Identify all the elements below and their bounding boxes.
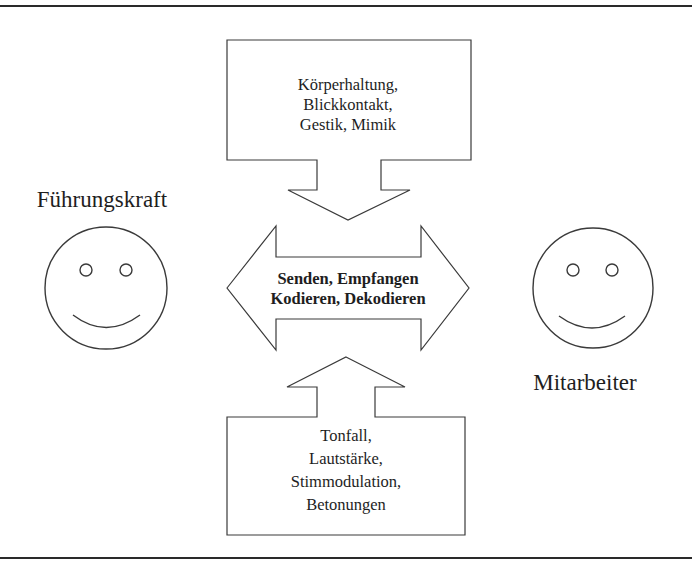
center-arrow-line-1: Senden, Empfangen [277,269,418,288]
bottom-callout-line-1: Tonfall, [320,426,372,445]
bottom-callout: Tonfall, Lautstärke, Stimmodulation, Bet… [227,357,465,535]
left-person-label: Führungskraft [37,187,168,212]
communication-diagram: Körperhaltung, Blickkontakt, Gestik, Mim… [0,0,692,573]
center-arrow-line-2: Kodieren, Dekodieren [270,289,425,308]
double-arrow-shape [227,226,469,350]
top-callout-line-1: Körperhaltung, [298,75,398,94]
face-outline [533,228,653,348]
top-callout-line-2: Blickkontakt, [303,95,392,114]
face-outline [45,227,167,349]
right-eye [606,264,618,276]
left-person: Führungskraft [37,187,168,349]
smile [559,316,625,328]
bottom-callout-line-3: Stimmodulation, [291,472,401,491]
left-eye [80,264,92,276]
top-callout-line-3: Gestik, Mimik [300,115,397,134]
left-eye [567,264,579,276]
right-smiley-face-icon [533,228,653,348]
right-eye [120,264,132,276]
right-person-label: Mitarbeiter [533,370,637,395]
top-callout: Körperhaltung, Blickkontakt, Gestik, Mim… [227,40,471,220]
left-smiley-face-icon [45,227,167,349]
bottom-callout-line-4: Betonungen [306,495,386,514]
right-person: Mitarbeiter [533,228,653,395]
smile [73,315,140,328]
bottom-callout-line-2: Lautstärke, [309,449,383,468]
center-double-arrow: Senden, Empfangen Kodieren, Dekodieren [227,226,469,350]
